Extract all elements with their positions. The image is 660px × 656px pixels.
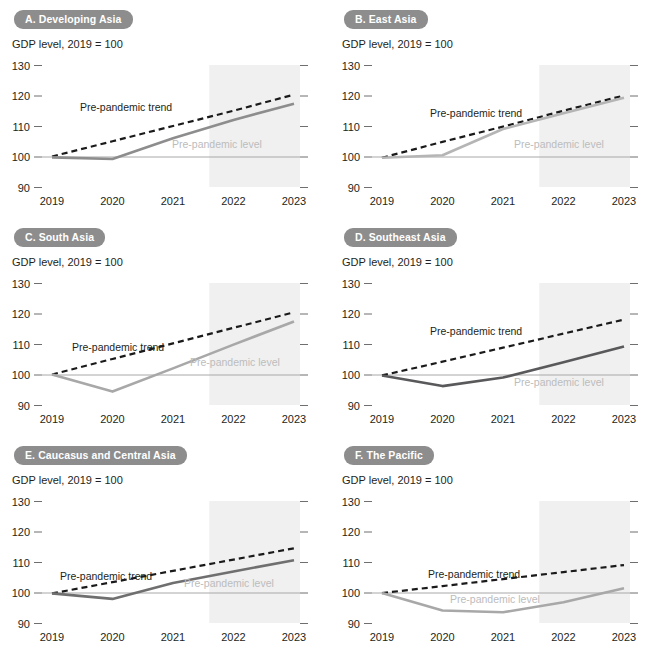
- annotation-pre-pandemic-level: Pre-pandemic level: [450, 593, 540, 605]
- forecast-shaded-band: [209, 283, 300, 405]
- y-tick-label: 120: [342, 90, 360, 102]
- annotation-pre-pandemic-trend: Pre-pandemic trend: [60, 570, 152, 582]
- x-tick-label: 2023: [612, 631, 636, 641]
- panel-axis-note: GDP level, 2019 = 100: [342, 256, 453, 268]
- x-tick-label: 2020: [430, 413, 454, 423]
- y-tick-label: 110: [12, 339, 30, 351]
- panel-title-badge: F. The Pacific: [344, 446, 434, 465]
- panel-a: A. Developing AsiaGDP level, 2019 = 1001…: [0, 0, 330, 218]
- annotation-pre-pandemic-level: Pre-pandemic level: [172, 138, 262, 150]
- y-tick-label: 120: [12, 90, 30, 102]
- panel-title-badge: C. South Asia: [14, 228, 105, 247]
- y-tick-label: 130: [342, 278, 360, 290]
- y-tick-label: 90: [18, 618, 30, 630]
- x-tick-label: 2021: [161, 631, 185, 641]
- x-tick-label: 2022: [221, 195, 245, 205]
- annotation-pre-pandemic-trend: Pre-pandemic trend: [80, 101, 172, 113]
- y-tick-label: 90: [18, 182, 30, 194]
- y-tick-label: 90: [348, 618, 360, 630]
- x-tick-label: 2019: [40, 195, 64, 205]
- plot-svg: 1301201101009020192020202120222023Pre-pa…: [342, 491, 642, 641]
- forecast-shaded-band: [209, 65, 300, 187]
- annotation-pre-pandemic-level: Pre-pandemic level: [514, 376, 604, 388]
- plot-area: 1301201101009020192020202120222023Pre-pa…: [342, 55, 642, 205]
- y-tick-label: 120: [342, 308, 360, 320]
- y-tick-label: 130: [342, 60, 360, 72]
- y-tick-label: 120: [12, 308, 30, 320]
- annotation-pre-pandemic-trend: Pre-pandemic trend: [428, 568, 520, 580]
- y-tick-label: 110: [12, 557, 30, 569]
- x-tick-label: 2021: [161, 413, 185, 423]
- x-tick-label: 2019: [40, 413, 64, 423]
- y-tick-label: 130: [12, 496, 30, 508]
- x-tick-label: 2023: [282, 631, 306, 641]
- gdp-level-panel-figure: A. Developing AsiaGDP level, 2019 = 1001…: [0, 0, 660, 656]
- y-tick-label: 100: [12, 587, 30, 599]
- y-tick-label: 110: [342, 339, 360, 351]
- x-tick-label: 2019: [370, 413, 394, 423]
- x-tick-label: 2022: [221, 631, 245, 641]
- y-tick-label: 100: [342, 369, 360, 381]
- y-tick-label: 90: [348, 400, 360, 412]
- panel-c: C. South AsiaGDP level, 2019 = 100130120…: [0, 218, 330, 436]
- x-tick-label: 2019: [40, 631, 64, 641]
- y-tick-label: 90: [348, 182, 360, 194]
- x-tick-label: 2019: [370, 631, 394, 641]
- plot-svg: 1301201101009020192020202120222023Pre-pa…: [12, 273, 312, 423]
- x-tick-label: 2021: [491, 413, 515, 423]
- plot-area: 1301201101009020192020202120222023Pre-pa…: [342, 491, 642, 641]
- y-tick-label: 120: [12, 526, 30, 538]
- panel-title-badge: E. Caucasus and Central Asia: [14, 446, 187, 465]
- x-tick-label: 2022: [551, 631, 575, 641]
- panel-title-badge: D. Southeast Asia: [344, 228, 457, 247]
- plot-area: 1301201101009020192020202120222023Pre-pa…: [12, 55, 312, 205]
- x-tick-label: 2022: [551, 195, 575, 205]
- x-tick-label: 2022: [221, 413, 245, 423]
- y-tick-label: 130: [12, 60, 30, 72]
- plot-svg: 1301201101009020192020202120222023Pre-pa…: [342, 55, 642, 205]
- plot-svg: 1301201101009020192020202120222023Pre-pa…: [342, 273, 642, 423]
- x-tick-label: 2021: [491, 195, 515, 205]
- y-tick-label: 90: [18, 400, 30, 412]
- x-tick-label: 2019: [370, 195, 394, 205]
- x-tick-label: 2023: [612, 195, 636, 205]
- x-tick-label: 2022: [551, 413, 575, 423]
- annotation-pre-pandemic-level: Pre-pandemic level: [514, 138, 604, 150]
- y-tick-label: 110: [342, 557, 360, 569]
- panel-title-badge: B. East Asia: [344, 10, 428, 29]
- annotation-pre-pandemic-trend: Pre-pandemic trend: [72, 341, 164, 353]
- forecast-shaded-band: [539, 65, 630, 187]
- y-tick-label: 100: [12, 369, 30, 381]
- panel-axis-note: GDP level, 2019 = 100: [12, 38, 123, 50]
- y-tick-label: 130: [12, 278, 30, 290]
- panel-b: B. East AsiaGDP level, 2019 = 1001301201…: [330, 0, 660, 218]
- x-tick-label: 2023: [282, 195, 306, 205]
- panel-axis-note: GDP level, 2019 = 100: [342, 474, 453, 486]
- panel-d: D. Southeast AsiaGDP level, 2019 = 10013…: [330, 218, 660, 436]
- y-tick-label: 100: [342, 151, 360, 163]
- x-tick-label: 2020: [100, 413, 124, 423]
- x-tick-label: 2021: [161, 195, 185, 205]
- x-tick-label: 2020: [100, 195, 124, 205]
- x-tick-label: 2023: [612, 413, 636, 423]
- panel-axis-note: GDP level, 2019 = 100: [12, 256, 123, 268]
- panel-axis-note: GDP level, 2019 = 100: [342, 38, 453, 50]
- y-tick-label: 100: [12, 151, 30, 163]
- plot-area: 1301201101009020192020202120222023Pre-pa…: [342, 273, 642, 423]
- annotation-pre-pandemic-trend: Pre-pandemic trend: [430, 107, 522, 119]
- x-tick-label: 2023: [282, 413, 306, 423]
- x-tick-label: 2020: [430, 631, 454, 641]
- plot-area: 1301201101009020192020202120222023Pre-pa…: [12, 491, 312, 641]
- panel-title-badge: A. Developing Asia: [14, 10, 133, 29]
- plot-area: 1301201101009020192020202120222023Pre-pa…: [12, 273, 312, 423]
- y-tick-label: 110: [342, 121, 360, 133]
- panel-e: E. Caucasus and Central AsiaGDP level, 2…: [0, 436, 330, 654]
- y-tick-label: 120: [342, 526, 360, 538]
- x-tick-label: 2020: [100, 631, 124, 641]
- x-tick-label: 2021: [491, 631, 515, 641]
- y-tick-label: 110: [12, 121, 30, 133]
- annotation-pre-pandemic-level: Pre-pandemic level: [190, 356, 280, 368]
- plot-svg: 1301201101009020192020202120222023Pre-pa…: [12, 491, 312, 641]
- y-tick-label: 100: [342, 587, 360, 599]
- x-tick-label: 2020: [430, 195, 454, 205]
